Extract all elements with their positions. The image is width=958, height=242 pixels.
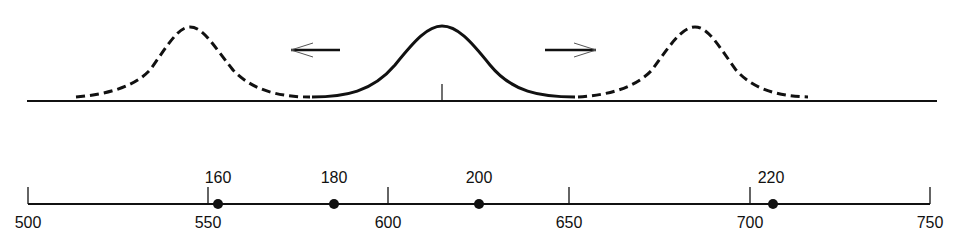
point-220 [768,199,778,209]
right-shifted-distribution [578,27,808,97]
point-label: 220 [758,169,785,186]
tick-label: 550 [195,214,222,231]
tick-label: 650 [556,214,583,231]
tick-label: 600 [375,214,402,231]
left-shifted-distribution [76,27,310,97]
diagram-canvas: 500 550 600 650 700 750 160 180 200 220 [0,0,958,242]
left-arrow-icon [291,43,340,57]
point-180 [329,199,339,209]
right-arrow-icon [545,43,596,57]
tick-label: 500 [15,214,42,231]
central-distribution [312,26,575,97]
tick-label: 750 [917,214,944,231]
point-label: 180 [321,169,348,186]
point-160 [213,199,223,209]
point-label: 160 [205,169,232,186]
tick-label: 700 [737,214,764,231]
point-label: 200 [466,169,493,186]
point-200 [474,199,484,209]
